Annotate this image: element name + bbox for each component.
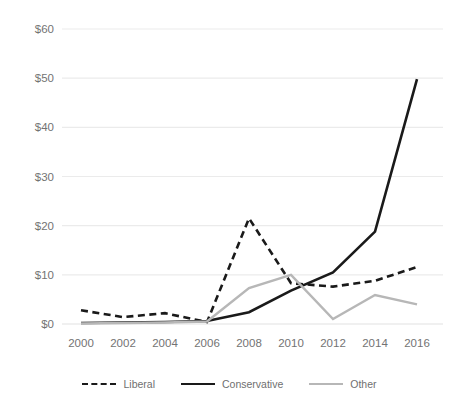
x-tick-label: 2010 [278, 337, 304, 349]
legend-item-other[interactable]: Other [309, 378, 376, 390]
x-tick-label: 2004 [152, 337, 178, 349]
x-tick-label: 2014 [362, 337, 388, 349]
x-tick-label: 2000 [68, 337, 94, 349]
x-tick-label: 2006 [194, 337, 220, 349]
chart-legend: LiberalConservativeOther [0, 378, 459, 390]
legend-label: Other [350, 378, 376, 390]
dashed-line-black-icon [82, 383, 116, 385]
x-tick-label: 2008 [236, 337, 262, 349]
x-tick-label: 2016 [404, 337, 430, 349]
legend-label: Conservative [222, 378, 283, 390]
chart-container: $60$50$40$30$20$10$0 2000200220042006200… [0, 0, 459, 405]
x-axis-tick-labels: 200020022004200620082010201220142016 [0, 0, 459, 405]
x-tick-label: 2002 [110, 337, 136, 349]
solid-line-gray-icon [309, 383, 343, 385]
legend-label: Liberal [123, 378, 155, 390]
legend-item-conservative[interactable]: Conservative [181, 378, 283, 390]
legend-item-liberal[interactable]: Liberal [82, 378, 155, 390]
x-tick-label: 2012 [320, 337, 346, 349]
solid-line-black-icon [181, 383, 215, 385]
